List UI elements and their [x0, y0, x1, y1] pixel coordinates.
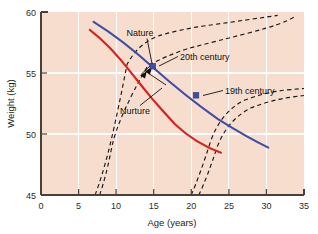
marker-19th-century[interactable]: [193, 93, 199, 99]
x-tick-label-20: 20: [186, 201, 196, 211]
marker-20th-century[interactable]: [150, 63, 156, 69]
y-axis-title: Weight (kg): [5, 79, 16, 127]
annotation-19th-century: 19th century: [225, 86, 275, 96]
y-tick-label-55: 55: [26, 69, 36, 79]
y-tick-label-60: 60: [26, 8, 36, 18]
annotation-nurture: Nurture: [120, 106, 150, 116]
x-tick-label-5: 5: [76, 201, 81, 211]
chart-figure: 60 55 50 45 0 5 10 15 20 25 30 35 Age (y…: [0, 0, 318, 234]
x-tick-label-15: 15: [149, 201, 159, 211]
x-tick-label-35: 35: [299, 201, 309, 211]
x-tick-label-25: 25: [224, 201, 234, 211]
x-tick-label-10: 10: [111, 201, 121, 211]
y-tick-label-50: 50: [26, 130, 36, 140]
x-axis-title: Age (years): [147, 217, 196, 228]
weight-vs-age-chart: 60 55 50 45 0 5 10 15 20 25 30 35 Age (y…: [0, 0, 318, 234]
x-tick-label-30: 30: [261, 201, 271, 211]
annotation-20th-century: 20th century: [180, 52, 230, 62]
x-tick-label-0: 0: [38, 201, 43, 211]
y-tick-label-45: 45: [26, 191, 36, 201]
annotation-nature: Nature: [126, 28, 153, 38]
